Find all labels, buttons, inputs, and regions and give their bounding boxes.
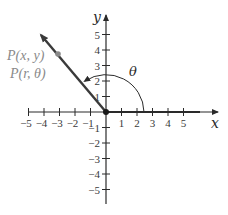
x-tick-label: −2	[67, 117, 79, 129]
y-tick-label: −1	[88, 122, 100, 134]
y-tick-label: 2	[95, 75, 101, 87]
x-tick-label: −5	[20, 117, 32, 129]
point-labels: P(x, y) P(r, θ)	[6, 48, 46, 82]
y-tick-label: 4	[95, 44, 101, 56]
y-axis-label: y	[92, 9, 102, 25]
y-tick-label: −3	[88, 153, 100, 165]
x-axis: −5 −4 −3 −2 −1 1 2 3 4 5 x	[20, 108, 219, 131]
y-tick-label: 3	[95, 60, 101, 72]
y-tick-label: 5	[95, 29, 101, 41]
theta-label: θ	[129, 64, 137, 79]
x-tick-label: −3	[51, 117, 63, 129]
x-tick-label: −4	[36, 117, 48, 129]
x-axis-label: x	[211, 115, 219, 131]
point-p	[55, 51, 61, 57]
y-tick-label: −4	[88, 168, 100, 180]
y-tick-label: −2	[88, 137, 100, 149]
y-tick-label: −5	[88, 184, 100, 196]
origin-point	[103, 109, 109, 115]
x-tick-label: 2	[134, 117, 140, 129]
point-label-polar: P(r, θ)	[9, 66, 46, 82]
x-tick-label: 3	[150, 117, 156, 129]
x-tick-label: 5	[181, 117, 187, 129]
y-axis: 1 2 3 4 5 −1 −2 −3 −4 −5 y	[88, 9, 110, 204]
x-tick-label: 1	[119, 117, 125, 129]
x-tick-label: 4	[165, 117, 171, 129]
polar-diagram: −5 −4 −3 −2 −1 1 2 3 4 5 x 1	[0, 0, 228, 215]
point-label-cartesian: P(x, y)	[6, 48, 45, 64]
